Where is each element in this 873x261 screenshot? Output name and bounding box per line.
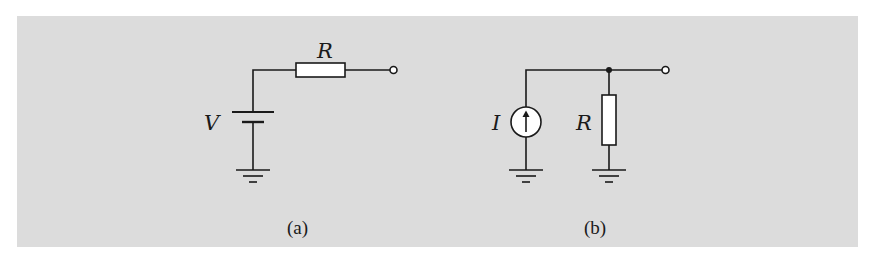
- caption-a: (a): [287, 217, 308, 239]
- wire-b-top: [526, 70, 662, 107]
- terminal-icon[interactable]: [662, 67, 669, 74]
- ground-icon: [236, 170, 270, 182]
- current-source-icon: [511, 107, 541, 137]
- label-resistor-a: R: [316, 39, 333, 63]
- resistor-icon: [602, 95, 616, 145]
- junction-dot-icon: [606, 67, 612, 73]
- label-current-b: I: [491, 111, 501, 135]
- battery-icon: [232, 112, 274, 122]
- wire-a-top: [253, 70, 296, 112]
- circuit-diagrams: R V I R (a) (b): [0, 0, 873, 261]
- label-resistor-b: R: [575, 111, 592, 135]
- circuit-a: [232, 63, 397, 182]
- ground-icon: [509, 170, 543, 182]
- terminal-icon[interactable]: [390, 67, 397, 74]
- ground-icon: [592, 170, 626, 182]
- label-voltage-a: V: [204, 111, 221, 135]
- caption-b: (b): [584, 217, 606, 239]
- resistor-icon: [296, 63, 345, 77]
